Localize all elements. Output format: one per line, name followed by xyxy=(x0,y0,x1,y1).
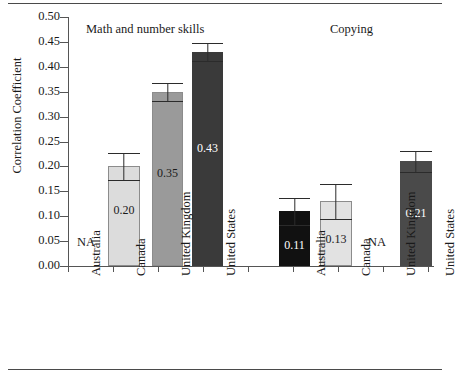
y-axis-line xyxy=(68,17,69,266)
y-tick xyxy=(60,42,68,43)
x-tick xyxy=(113,266,114,272)
y-tick-label: 0.05 xyxy=(14,234,60,246)
error-bar-copying-us xyxy=(400,151,432,173)
x-tick xyxy=(428,266,429,272)
y-tick xyxy=(60,191,68,192)
y-tick xyxy=(60,67,68,68)
bar-value-copying-australia: 0.11 xyxy=(280,238,309,253)
y-tick xyxy=(60,216,68,217)
y-tick-label: 0.10 xyxy=(14,209,60,221)
x-label-copying-canada: Canada xyxy=(359,239,374,276)
y-tick-label: 0.50 xyxy=(14,10,60,22)
group-title-copying: Copying xyxy=(330,22,373,37)
error-bar-math-uk xyxy=(152,83,183,101)
y-tick-label: 0.35 xyxy=(14,85,60,97)
x-label-copying-uk: United Kingdom xyxy=(404,192,419,276)
y-tick-label: 0.45 xyxy=(14,35,60,47)
x-label-math-canada: Canada xyxy=(134,239,149,276)
bar-value-math-canada: 0.20 xyxy=(109,203,139,218)
group-title-math: Math and number skills xyxy=(86,22,204,37)
error-bar-copying-australia xyxy=(279,198,310,225)
bottom-rule xyxy=(8,369,442,370)
x-label-copying-us: United States xyxy=(443,209,458,276)
x-label-math-uk: United Kingdom xyxy=(179,192,194,276)
y-tick xyxy=(60,117,68,118)
x-tick xyxy=(68,266,69,272)
x-axis-line xyxy=(68,266,434,267)
y-tick xyxy=(60,17,68,18)
bar-value-math-us: 0.43 xyxy=(193,141,222,156)
y-tick-label: 0.40 xyxy=(14,60,60,72)
y-tick-label: 0.30 xyxy=(14,110,60,122)
error-bar-math-canada xyxy=(108,153,140,181)
y-tick-label: 0.15 xyxy=(14,184,60,196)
x-label-math-australia: Australia xyxy=(89,230,104,276)
x-label-math-us: United States xyxy=(224,209,239,276)
bar-math-us[interactable]: 0.43 xyxy=(192,52,223,266)
y-tick-label: 0.20 xyxy=(14,159,60,171)
y-tick-label: 0.25 xyxy=(14,135,60,147)
x-label-copying-australia: Australia xyxy=(314,230,329,276)
bar-value-math-uk: 0.35 xyxy=(153,166,182,181)
y-tick xyxy=(60,266,68,267)
y-tick xyxy=(60,166,68,167)
y-tick xyxy=(60,142,68,143)
top-rule xyxy=(8,3,442,4)
x-tick xyxy=(203,266,204,272)
x-tick xyxy=(338,266,339,272)
x-tick xyxy=(248,266,249,272)
y-tick-label: 0.00 xyxy=(14,259,60,271)
error-bar-copying-canada xyxy=(320,184,352,219)
error-bar-math-us xyxy=(192,43,223,61)
x-tick xyxy=(293,266,294,272)
x-tick xyxy=(158,266,159,272)
y-tick xyxy=(60,92,68,93)
x-tick xyxy=(383,266,384,272)
